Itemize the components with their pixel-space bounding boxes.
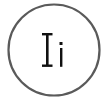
text-case-icon: Ii <box>0 0 104 100</box>
circle-icon <box>0 0 104 100</box>
